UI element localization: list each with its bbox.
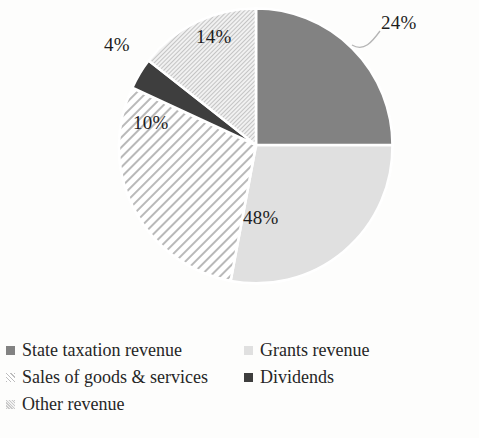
legend-item-dividends: Dividends [244,363,479,390]
legend-label-dividends: Dividends [260,367,334,387]
pie-value-label-other-revenue: 14% [196,26,231,48]
pie-value-label-dividends: 4% [104,34,130,56]
pie-slice-state-taxation-revenue [256,9,393,146]
legend-swatch-dividends [244,373,253,382]
pie-value-label-state-taxation: 24% [381,12,416,34]
legend-swatch-sales-of-goods-and-services [6,373,15,382]
legend-swatch-grants-revenue [244,346,253,355]
legend-swatch-other-revenue [6,400,15,409]
legend-label-sales-of-goods-and-services: Sales of goods & services [22,367,208,387]
pie-value-label-grants: 48% [243,207,278,229]
pie-value-label-sales: 10% [133,112,168,134]
pie-chart-figure: 24% 14% 4% 10% 48% State taxation revenu… [0,0,479,438]
pie-chart-plot-area: 24% 14% 4% 10% 48% [0,0,479,300]
legend-item-sales-of-goods-and-services: Sales of goods & services [6,363,246,390]
legend-label-state-taxation-revenue: State taxation revenue [22,340,182,360]
pie-chart-svg [0,0,479,300]
legend-column-left: State taxation revenue Sales of goods & … [6,336,246,417]
legend-swatch-state-taxation-revenue [6,346,15,355]
legend-item-other-revenue: Other revenue [6,390,246,417]
leader-line-state-taxation [352,31,380,47]
legend-label-other-revenue: Other revenue [22,394,124,414]
legend-item-state-taxation-revenue: State taxation revenue [6,336,246,363]
legend-label-grants-revenue: Grants revenue [260,340,369,360]
legend-column-right: Grants revenue Dividends [244,336,479,390]
chart-legend: State taxation revenue Sales of goods & … [0,336,479,438]
legend-item-grants-revenue: Grants revenue [244,336,479,363]
